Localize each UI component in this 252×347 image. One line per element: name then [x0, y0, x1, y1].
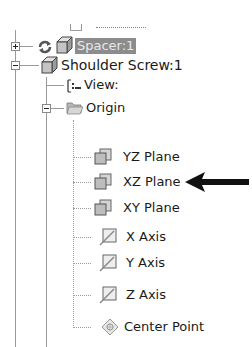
- tree-item-x-axis[interactable]: X Axis: [126, 229, 166, 245]
- tree-item-z-axis[interactable]: Z Axis: [126, 287, 166, 303]
- tree-line-origin: [73, 120, 74, 328]
- view-representation-icon: [66, 78, 82, 94]
- partial-top-item: [70, 24, 82, 31]
- tree-item-xz-plane[interactable]: XZ Plane: [123, 174, 181, 190]
- tree-item-y-axis[interactable]: Y Axis: [126, 255, 165, 271]
- work-axis-icon: [99, 228, 117, 246]
- update-cycle-icon: [37, 39, 53, 55]
- collapse-shoulder-screw-button[interactable]: [11, 61, 20, 70]
- tree-branch-xz: [73, 182, 91, 183]
- collapse-origin-button[interactable]: [42, 104, 51, 113]
- tree-branch-center: [73, 327, 91, 328]
- part-cube-icon: [40, 56, 58, 74]
- tree-item-yz-plane[interactable]: YZ Plane: [123, 149, 180, 165]
- folder-icon: [66, 100, 84, 115]
- tree-item-xy-plane[interactable]: XY Plane: [123, 200, 180, 216]
- tree-item-spacer[interactable]: Spacer:1: [75, 38, 136, 54]
- work-point-icon: [101, 318, 119, 336]
- work-axis-icon: [99, 286, 117, 304]
- tree-branch-view: [46, 85, 64, 86]
- tree-branch-xy: [73, 208, 91, 209]
- tree-item-shoulder-screw[interactable]: Shoulder Screw:1: [61, 57, 183, 73]
- tree-branch-z: [73, 295, 91, 296]
- work-plane-icon: [93, 173, 113, 191]
- work-plane-icon: [93, 148, 113, 166]
- tree-item-origin[interactable]: Origin: [86, 100, 125, 116]
- expand-spacer-button[interactable]: [11, 42, 20, 51]
- annotation-arrow-icon: [185, 170, 250, 194]
- work-plane-icon: [93, 199, 113, 217]
- tree-branch-x: [73, 237, 91, 238]
- tree-branch-y: [73, 263, 91, 264]
- partial-top-label: [96, 27, 146, 28]
- tree-item-view[interactable]: View:: [84, 77, 119, 93]
- part-cube-icon: [55, 36, 73, 54]
- work-axis-icon: [99, 254, 117, 272]
- tree-item-center-point[interactable]: Center Point: [124, 319, 204, 335]
- tree-line-shoulder: [46, 77, 47, 347]
- tree-line-root: [15, 30, 16, 347]
- tree-branch-yz: [73, 157, 91, 158]
